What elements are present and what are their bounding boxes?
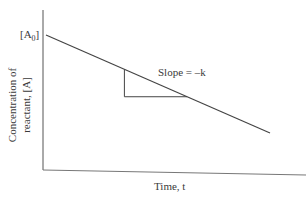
y-intercept-label: [A0] [20,28,39,43]
slope-annotation: Slope = –k [158,66,206,78]
x-axis [43,170,306,175]
y-axis-label-line-2: reactant, [A] [19,50,33,160]
x-axis-label: Time, t [154,180,185,192]
y-intercept-label-close: ] [36,28,40,40]
y-intercept-label-main: [A [20,28,32,40]
zero-order-plot [0,0,306,201]
y-axis-label-line-1: Concentration of [5,50,19,160]
y-axis-label: Concentration of reactant, [A] [5,50,45,160]
concentration-line [46,35,270,133]
